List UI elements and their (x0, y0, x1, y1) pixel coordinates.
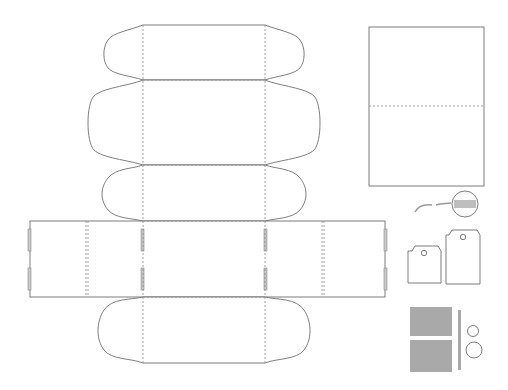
left-inner-tab-bottom (141, 268, 144, 290)
small-tag (408, 246, 441, 283)
folded-card (369, 27, 484, 186)
left-edge-tab-bottom (28, 268, 31, 290)
grey-accessories (410, 307, 482, 372)
right-inner-tab-bottom (264, 268, 267, 290)
small-circle (468, 326, 479, 337)
large-circle (466, 342, 482, 358)
grey-panel-band (410, 336, 452, 340)
grey-panel-top (410, 307, 452, 338)
bottom-flap-outline (98, 297, 310, 363)
grey-strip (458, 310, 461, 370)
grey-panel-bottom (410, 340, 452, 372)
right-edge-tab-bottom (384, 268, 387, 290)
left-edge-tab-top (28, 229, 31, 251)
right-edge-tab-top (384, 229, 387, 251)
right-inner-tab-top (264, 229, 267, 251)
box-net (28, 25, 387, 363)
string-end-icon (436, 203, 451, 205)
string-curl-icon (415, 205, 432, 212)
template-canvas (0, 0, 508, 390)
lid-flap-outline (104, 25, 304, 80)
front-panel-outline (102, 165, 306, 221)
lid-top-outline (88, 80, 320, 165)
small-tag-hole (421, 250, 426, 255)
string-with-seal (415, 191, 478, 217)
large-tag (446, 230, 480, 284)
base-and-sides-outline (30, 221, 385, 297)
left-inner-tab-top (141, 229, 144, 251)
large-tag-hole (460, 234, 465, 239)
card-outline (369, 27, 484, 186)
